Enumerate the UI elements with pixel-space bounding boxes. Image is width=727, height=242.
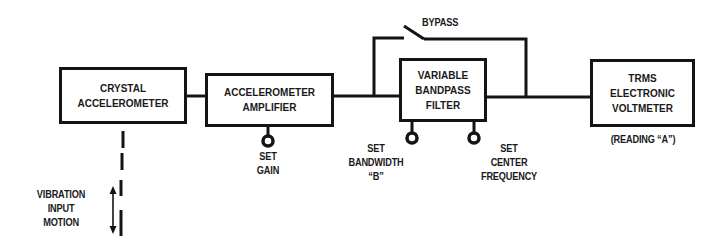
label-line: BANDWIDTH <box>346 156 407 170</box>
label-line: SET <box>346 142 407 156</box>
reading-a-label: (READING “A”) <box>602 133 685 147</box>
block-label: ELECTRONIC <box>610 86 675 101</box>
block-label: TRMS <box>628 71 656 86</box>
variable-bandpass-filter-block: VARIABLE BANDPASS FILTER <box>399 58 487 122</box>
block-label: FILTER <box>426 98 460 113</box>
block-label: BANDPASS <box>415 83 470 98</box>
block-label: VOLTMETER <box>612 101 673 116</box>
label-line: INPUT <box>29 202 93 216</box>
label-line: “B” <box>346 170 407 184</box>
bypass-label: BYPASS <box>422 16 470 30</box>
block-label: AMPLIFIER <box>243 100 297 115</box>
label-line: GAIN <box>250 164 287 178</box>
set-bandwidth-label: SET BANDWIDTH “B” <box>346 142 407 184</box>
label-line: SET <box>479 142 540 156</box>
set-center-frequency-label: SET CENTER FREQUENCY <box>479 142 540 184</box>
accelerometer-amplifier-block: ACCELEROMETER AMPLIFIER <box>205 73 334 127</box>
block-label: ACCELEROMETER <box>77 96 168 111</box>
label-line: MOTION <box>29 216 93 230</box>
crystal-accelerometer-block: CRYSTAL ACCELEROMETER <box>59 67 187 124</box>
label-line: VIBRATION <box>29 188 93 202</box>
set-gain-label: SET GAIN <box>250 150 287 178</box>
block-label: ACCELEROMETER <box>224 85 315 100</box>
label-line: FREQUENCY <box>479 170 540 184</box>
block-label: CRYSTAL <box>100 81 146 96</box>
trms-voltmeter-block: TRMS ELECTRONIC VOLTMETER <box>590 59 695 127</box>
label-line: CENTER <box>479 156 540 170</box>
label-line: SET <box>250 150 287 164</box>
block-label: VARIABLE <box>418 68 468 83</box>
vibration-input-label: VIBRATION INPUT MOTION <box>29 188 93 230</box>
